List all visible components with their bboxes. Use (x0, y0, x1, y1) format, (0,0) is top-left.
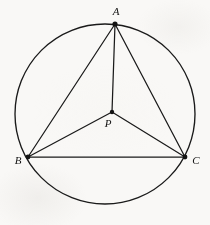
geometry-figure: A B C P (0, 0, 210, 225)
segment-pc (112, 112, 185, 157)
segment-pa (112, 24, 115, 112)
segment-pb (28, 112, 112, 157)
vertex-dot-p (110, 110, 114, 114)
point-label-p: P (104, 117, 112, 129)
point-label-a: A (112, 5, 120, 17)
vertex-dot-a (112, 21, 117, 26)
vertex-dot-b (26, 155, 31, 160)
point-label-c: C (192, 154, 200, 166)
figure-canvas: A B C P (0, 0, 210, 225)
segment-ab (28, 24, 115, 157)
point-label-b: B (15, 154, 22, 166)
segment-ac (115, 24, 185, 157)
circumscribed-circle (15, 24, 195, 204)
vertex-dot-c (183, 155, 188, 160)
